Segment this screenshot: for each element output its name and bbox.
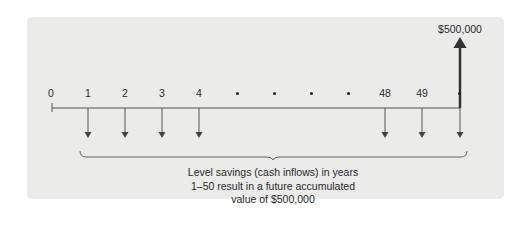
ellipsis-dot [310,92,313,95]
ellipsis-dot [347,92,350,95]
down-arrow-year-1 [85,108,92,138]
year-label: 0 [48,88,54,99]
up-arrow-future-value [454,37,467,108]
brace [80,151,467,160]
ellipsis-dot [458,92,461,95]
down-arrow-year-3 [159,108,166,138]
year-label: 3 [159,88,165,99]
down-arrow-year-50 [457,108,464,138]
year-label: 2 [122,88,128,99]
future-value-label: $500,000 [438,24,482,35]
ellipsis-dot [236,92,239,95]
caption: Level savings (cash inflows) in years 1–… [153,166,393,207]
year-label: 1 [85,88,91,99]
down-arrow-year-4 [196,108,203,138]
ellipsis-dot [273,92,276,95]
down-arrow-year-49 [419,108,426,138]
year-label: 49 [416,88,428,99]
caption-line-1: Level savings (cash inflows) in years [153,166,393,180]
down-arrow-year-2 [122,108,129,138]
year-label: 48 [379,88,391,99]
caption-line-3: value of $500,000 [153,193,393,207]
year-label: 4 [196,88,202,99]
caption-line-2: 1–50 result in a future accumulated [153,180,393,194]
down-arrow-year-48 [382,108,389,138]
